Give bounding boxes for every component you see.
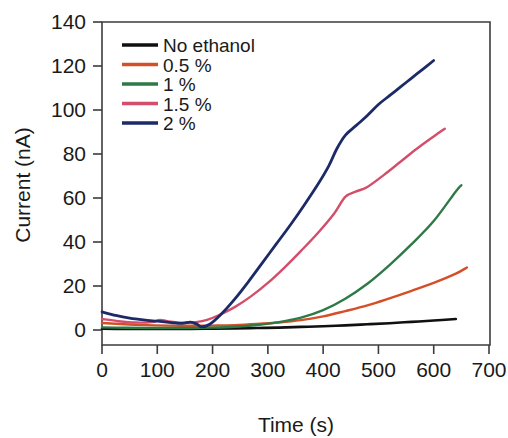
chart-figure: 020406080100120140 010020030040050060070…	[0, 0, 508, 438]
data-series-group	[102, 61, 467, 329]
series-line-1-5	[102, 129, 445, 323]
y-tick-label: 20	[63, 274, 86, 297]
y-tick-label: 40	[63, 230, 86, 253]
y-tick-label: 100	[51, 98, 86, 121]
x-tick-label: 300	[250, 358, 285, 381]
plot-border	[102, 22, 490, 345]
x-axis-title: Time (s)	[258, 413, 334, 436]
plot-frame	[102, 22, 490, 345]
x-tick-label: 0	[96, 358, 108, 381]
legend-label-1: 0.5 %	[163, 55, 212, 76]
series-line-0-5	[102, 268, 467, 326]
y-tick-label: 60	[63, 186, 86, 209]
x-tick-label: 100	[140, 358, 175, 381]
y-axis-tick-labels: 020406080100120140	[51, 10, 86, 341]
x-axis-tick-labels: 0100200300400500600700	[96, 358, 506, 381]
y-tick-label: 140	[51, 10, 86, 33]
x-tick-label: 400	[306, 358, 341, 381]
x-tick-label: 700	[471, 358, 506, 381]
y-tick-label: 0	[74, 318, 86, 341]
legend-label-0: No ethanol	[163, 35, 255, 56]
legend-label-4: 2 %	[163, 113, 196, 134]
axis-ticks	[93, 22, 489, 354]
y-axis-title: Current (nA)	[11, 127, 34, 243]
x-tick-label: 600	[416, 358, 451, 381]
x-tick-label: 500	[361, 358, 396, 381]
x-tick-label: 200	[195, 358, 230, 381]
y-tick-label: 80	[63, 142, 86, 165]
series-line-1	[102, 185, 461, 328]
line-chart: 020406080100120140 010020030040050060070…	[0, 0, 508, 438]
series-line-2	[102, 61, 434, 327]
legend-label-3: 1.5 %	[163, 94, 212, 115]
legend-label-2: 1 %	[163, 74, 196, 95]
y-tick-label: 120	[51, 54, 86, 77]
chart-legend: No ethanol0.5 %1 %1.5 %2 %	[122, 35, 255, 134]
